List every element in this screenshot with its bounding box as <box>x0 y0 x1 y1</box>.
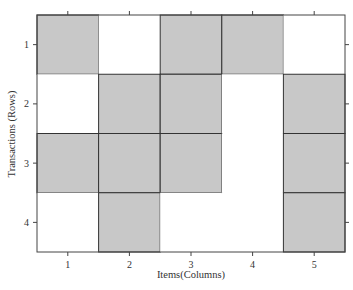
x-axis-title: Items(Columns) <box>157 269 226 281</box>
matrix-cell <box>37 193 99 252</box>
matrix-cell <box>99 193 161 252</box>
matrix-cell <box>222 74 284 133</box>
y-tick-label: 3 <box>24 158 29 169</box>
y-tick-label: 2 <box>24 98 29 109</box>
matrix-cell <box>37 134 99 193</box>
y-tick-label: 1 <box>24 39 29 50</box>
matrix-cell <box>37 74 99 133</box>
x-tick-label: 1 <box>65 259 70 270</box>
x-tick-label: 2 <box>127 259 132 270</box>
y-tick-labels: 1234 <box>24 39 29 228</box>
matrix-cell <box>283 74 345 133</box>
y-tick-label: 4 <box>24 217 29 228</box>
y-axis-title: Transactions (Rows) <box>6 90 18 177</box>
matrix-cell <box>283 193 345 252</box>
matrix-cell <box>283 134 345 193</box>
matrix-cell <box>160 134 222 193</box>
matrix-cell <box>99 134 161 193</box>
x-tick-label: 4 <box>250 259 255 270</box>
matrix-cell <box>160 15 222 74</box>
matrix-cell <box>99 74 161 133</box>
matrix-cell <box>283 15 345 74</box>
matrix-cell <box>222 134 284 193</box>
matrix-cell <box>160 193 222 252</box>
matrix-cell <box>37 15 99 74</box>
binary-matrix-chart: 12345 1234 Items(Columns) Transactions (… <box>0 0 353 290</box>
matrix-cell <box>160 74 222 133</box>
matrix-cells <box>37 15 345 252</box>
matrix-cell <box>99 15 161 74</box>
x-tick-label: 5 <box>312 259 317 270</box>
matrix-cell <box>222 193 284 252</box>
matrix-cell <box>222 15 284 74</box>
